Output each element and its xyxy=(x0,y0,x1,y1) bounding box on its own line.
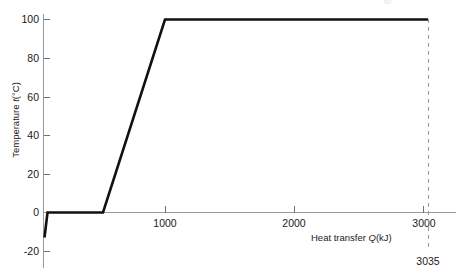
axes-group xyxy=(44,14,457,268)
y-tick-label-minus20: -20 xyxy=(24,245,39,257)
annotation-label-3035: 3035 xyxy=(416,255,440,267)
x-tick-label-3000: 3000 xyxy=(412,217,436,229)
x-axis-title-text: Heat transfer xyxy=(311,232,369,243)
y-tick-label-60: 60 xyxy=(27,91,39,103)
y-tick-label-40: 40 xyxy=(27,129,39,141)
end-of-vaporization-annotation: 3035 xyxy=(416,19,440,267)
x-axis-ticks xyxy=(166,206,424,213)
x-axis-title: Heat transfer Q(kJ) xyxy=(311,232,392,243)
y-tick-label-0: 0 xyxy=(33,206,39,218)
x-tick-label-1000: 1000 xyxy=(153,217,177,229)
x-tick-label-2000: 2000 xyxy=(282,217,306,229)
heating-curve-line xyxy=(45,20,429,238)
y-tick-label-80: 80 xyxy=(27,52,39,64)
chart-page: 6/ 100 80 60 40 20 0 -20 xyxy=(0,0,458,277)
temperature-heat-transfer-chart: 100 80 60 40 20 0 -20 1000 2000 3000 Hea… xyxy=(0,0,458,277)
x-axis-tick-labels: 1000 2000 3000 xyxy=(153,217,436,229)
x-axis-title-unit: (kJ) xyxy=(376,232,392,243)
y-axis-title: Temperature t(°C) xyxy=(10,82,21,158)
y-tick-label-100: 100 xyxy=(21,13,39,25)
y-tick-label-20: 20 xyxy=(27,168,39,180)
y-axis-tick-labels: 100 80 60 40 20 0 -20 xyxy=(21,13,39,257)
y-axis-title-unit: (°C) xyxy=(10,82,21,99)
y-axis-title-text: Temperature xyxy=(10,102,21,158)
